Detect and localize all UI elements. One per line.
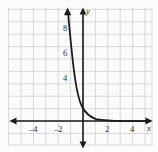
coordinate-plane-svg [0, 0, 158, 152]
y-axis-label: y [86, 7, 90, 16]
y-tick-label-4: 4 [63, 74, 67, 83]
x-tick-label-4: 4 [130, 125, 134, 134]
y-tick-label-8: 8 [63, 24, 67, 33]
y-tick-label-6: 6 [63, 49, 67, 58]
x-tick-label-minus-2: –2 [54, 125, 63, 134]
figure-background [0, 0, 158, 152]
x-axis-label: x [147, 124, 151, 133]
graph-figure: 8 6 4 –4 –2 2 4 y x [0, 0, 158, 152]
x-tick-label-2: 2 [105, 125, 109, 134]
x-tick-label-minus-4: –4 [29, 125, 38, 134]
